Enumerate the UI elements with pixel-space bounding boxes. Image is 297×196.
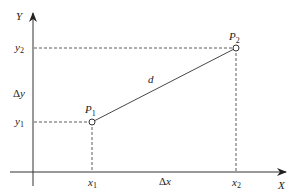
p2-label: P2 [228,30,240,45]
x1-label: x1 [87,176,97,190]
point-p2 [233,45,239,51]
x2-label: x2 [231,176,241,190]
distance-label: d [148,73,154,85]
distance-diagram: Y X P1 P2 d y2 y1 Δy x1 x2 Δx [0,0,297,196]
y2-label: y2 [14,41,24,55]
y-axis-label: Y [16,10,24,22]
distance-segment [92,48,236,122]
p1-label: P1 [84,103,96,118]
y1-label: y1 [14,115,24,129]
delta-x-label: Δx [159,175,171,187]
delta-y-label: Δy [13,87,25,99]
point-p1 [89,119,95,125]
x-axis-label: X [277,179,286,191]
